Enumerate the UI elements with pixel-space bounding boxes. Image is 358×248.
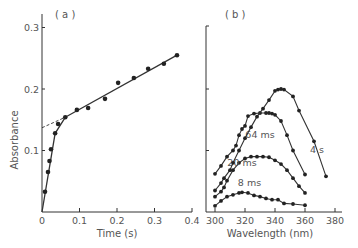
x-tick-label: 360 (296, 215, 314, 226)
panel-a-ylabel: Absorbance (9, 110, 20, 169)
data-point (222, 176, 226, 180)
data-point (63, 115, 68, 120)
data-point (291, 176, 295, 180)
data-point (49, 147, 54, 152)
data-point (219, 190, 223, 194)
data-point (252, 193, 256, 197)
data-point (234, 144, 238, 148)
data-point (225, 195, 229, 199)
fit-line (42, 117, 65, 212)
data-point (231, 193, 235, 197)
data-point (246, 114, 250, 118)
chart-canvas: ( a ) Time (s) Absorbance 00.10.20.30.40… (0, 0, 358, 248)
data-point (255, 115, 259, 119)
figure: ( a ) Time (s) Absorbance 00.10.20.30.40… (0, 0, 358, 248)
y-tick-label: 0.1 (24, 145, 39, 156)
data-point (228, 168, 232, 172)
panel-a-xlabel: Time (s) (96, 228, 138, 239)
panel-a-plot-area (42, 53, 179, 212)
data-point (219, 181, 223, 185)
panel-b-label: ( b ) (225, 9, 246, 20)
data-point (132, 76, 137, 81)
data-point (231, 161, 235, 165)
data-point (291, 202, 295, 206)
data-point (297, 184, 301, 188)
data-point (249, 125, 253, 129)
data-point (146, 66, 151, 71)
x-tick-label: 300 (206, 215, 224, 226)
data-point (291, 149, 295, 153)
data-point (303, 203, 307, 207)
data-point (219, 199, 223, 203)
data-point (303, 173, 307, 177)
data-point (246, 191, 250, 195)
data-point (279, 119, 283, 123)
data-point (103, 97, 108, 102)
data-point (261, 107, 265, 111)
data-point (252, 112, 256, 116)
series-data (43, 53, 180, 194)
data-point (324, 174, 328, 178)
x-tick-label: 0.2 (109, 215, 124, 226)
data-point (240, 127, 244, 131)
data-point (47, 159, 52, 164)
data-point (297, 109, 301, 113)
data-point (282, 201, 286, 205)
data-point (219, 164, 223, 168)
data-point (175, 53, 180, 58)
panel-a: ( a ) Time (s) Absorbance 00.10.20.30.40… (9, 9, 200, 239)
data-point (225, 179, 229, 183)
data-point (270, 198, 274, 202)
data-point (213, 172, 217, 176)
data-point (46, 170, 51, 175)
fit-line (65, 55, 177, 117)
panel-a-axes: 00.10.20.30.40.10.20.3 (24, 14, 200, 226)
x-tick-label: 0.4 (184, 215, 199, 226)
data-point (243, 124, 247, 128)
data-point (276, 198, 280, 202)
x-tick-label: 0.1 (72, 215, 87, 226)
data-point (267, 155, 271, 159)
data-point (213, 204, 217, 208)
x-tick-label: 0 (39, 215, 45, 226)
data-point (162, 61, 167, 66)
data-point (261, 155, 265, 159)
data-point (213, 195, 217, 199)
data-point (75, 108, 80, 113)
data-point (291, 94, 295, 98)
data-point (258, 195, 262, 199)
data-point (231, 149, 235, 153)
data-point (237, 149, 241, 153)
series-label: 8 ms (238, 177, 261, 188)
data-point (267, 98, 271, 102)
data-point (264, 197, 268, 201)
data-point (116, 81, 121, 86)
y-tick-label: 0.3 (24, 22, 39, 33)
data-point (285, 168, 289, 172)
panel-b-plot-area: 8 ms20 ms64 ms4 s (213, 87, 328, 208)
data-point (273, 113, 277, 117)
series-label: 4 s (310, 144, 324, 155)
data-point (303, 191, 307, 195)
data-point (53, 131, 58, 136)
data-point (285, 133, 289, 137)
x-tick-label: 0.3 (147, 215, 162, 226)
data-point (240, 190, 244, 194)
panel-b-xlabel: Wavelength (nm) (227, 228, 313, 239)
data-point (56, 122, 61, 127)
data-point (43, 189, 48, 194)
data-point (225, 155, 229, 159)
data-point (243, 136, 247, 140)
panel-b: ( b ) Wavelength (nm) 300320340360380 8 … (206, 9, 344, 239)
data-point (312, 139, 316, 143)
data-point (279, 162, 283, 166)
data-point (273, 158, 277, 162)
data-point (282, 88, 286, 92)
x-tick-label: 380 (326, 215, 344, 226)
data-point (86, 106, 91, 111)
y-tick-label: 0.2 (24, 84, 39, 95)
data-point (222, 186, 226, 190)
x-tick-label: 320 (236, 215, 254, 226)
data-point (213, 189, 217, 193)
series-label: 64 ms (245, 129, 274, 140)
